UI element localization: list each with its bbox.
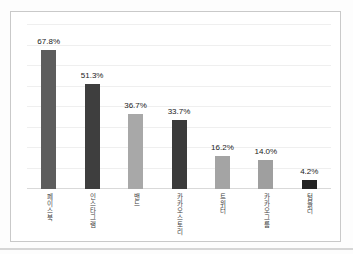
bar-category-label: 밴드: [132, 193, 140, 207]
bar-category-label: 텀블러: [305, 193, 313, 214]
bar-value-label: 4.2%: [300, 167, 318, 176]
chart-frame: 67.8%페이스북51.3%인스타그램36.7%밴드33.7%카카오스토리16.…: [10, 11, 341, 242]
bar-category-label: 카카오스토리: [175, 193, 183, 235]
page-edge-divider: [0, 248, 353, 250]
bar-group: 4.2%텀블러: [27, 25, 331, 189]
bar-category-label: 카카오그룹: [262, 193, 270, 228]
bar-category-label: 페이스북: [45, 193, 53, 221]
bar-category-label: 인스타그램: [88, 193, 96, 228]
bar-category-label: 트위터: [218, 193, 226, 214]
plot-area: 67.8%페이스북51.3%인스타그램36.7%밴드33.7%카카오스토리16.…: [27, 25, 331, 189]
bar: [302, 180, 317, 189]
